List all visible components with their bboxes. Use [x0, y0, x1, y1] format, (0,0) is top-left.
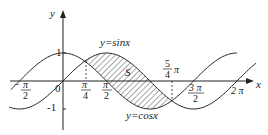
denominator: 2 [193, 93, 198, 104]
y-tick-label-1: 1 [56, 46, 62, 58]
x-axis-label: x [255, 78, 261, 90]
x-tick-label-neg-pi-over-2: − π 2 [14, 79, 31, 101]
x-tick-label-2pi: 2 π [231, 85, 245, 96]
denominator: 4 [83, 90, 88, 101]
x-axis-arrow-icon [246, 78, 254, 84]
x-tick-label-3pi-over-2: 3 π 2 [188, 82, 204, 104]
y-axis-arrow-icon [60, 10, 66, 18]
y-axis-label: y [49, 7, 55, 19]
numerator: 5 [165, 58, 170, 69]
x-tick-label-pi-over-4: π 4 [81, 79, 91, 101]
numerator: 3 π [188, 82, 203, 93]
origin-label: 0 [55, 82, 61, 94]
diagram-canvas: y x 0 1 -1 − π 2 π 4 π 2 5 4 π 3 π 2 2 π… [0, 0, 268, 135]
cos-curve-label: y=cosx [125, 109, 158, 121]
denominator: 2 [104, 90, 109, 101]
denominator: 2 [23, 90, 28, 101]
region-label-s: S [125, 66, 131, 78]
minus-sign: − [14, 79, 20, 90]
sin-curve-label: y=sinx [99, 36, 130, 48]
denominator: 4 [165, 69, 170, 80]
x-tick-label-5pi-over-4: 5 4 π [163, 58, 180, 80]
y-tick-label-neg1: -1 [47, 101, 56, 113]
pi-suffix: π [174, 64, 180, 75]
